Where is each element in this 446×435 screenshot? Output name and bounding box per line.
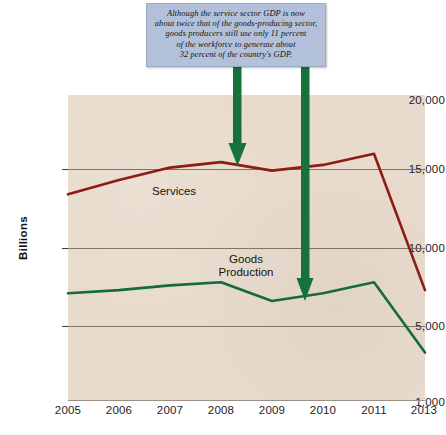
callout-line-4: of the workforce to generate about (153, 40, 319, 50)
series-label-goods-line2: Production (213, 266, 279, 279)
callout-line-1: Although the service sector GDP is now (153, 9, 319, 19)
series-label-goods-production: Goods Production (213, 253, 279, 279)
callout-note: Although the service sector GDP is now a… (146, 3, 326, 67)
series-line-goods-production (68, 282, 425, 352)
callout-line-2: about twice that of the goods-producing … (153, 19, 319, 29)
series-label-goods-line1: Goods (213, 253, 279, 266)
arrow-to-goods-icon (297, 62, 314, 301)
series-label-services: Services (152, 185, 196, 197)
callout-line-5: 32 percent of the country's GDP. (153, 50, 319, 60)
callout-line-3: goods producers still use only 11 percen… (153, 29, 319, 39)
arrow-to-services-icon (229, 62, 247, 166)
